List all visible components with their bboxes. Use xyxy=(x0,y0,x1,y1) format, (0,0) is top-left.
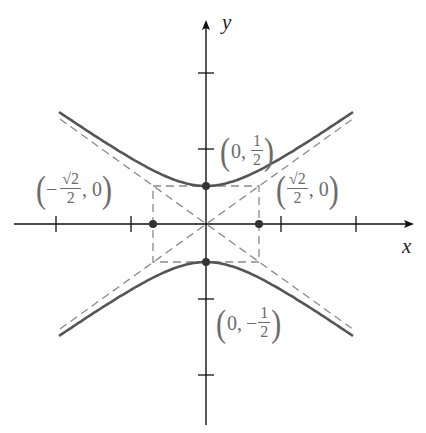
label-covertex-right: ( √2 2 , 0 ) xyxy=(276,170,339,207)
fraction: 1 2 xyxy=(258,304,270,341)
label-covertex-left: ( − √2 2 , 0 ) xyxy=(36,170,112,207)
label-vertex-top: ( 0, 1 2 ) xyxy=(220,132,274,169)
covertex-left-point xyxy=(149,220,157,228)
label-vertex-bottom: ( 0, − 1 2 ) xyxy=(216,304,281,341)
plot-canvas xyxy=(0,0,426,433)
vertex-bottom-point xyxy=(202,258,210,266)
x-axis-label: x xyxy=(402,236,411,257)
fraction: √2 2 xyxy=(60,170,81,207)
covertex-right-point xyxy=(255,220,263,228)
fraction: √2 2 xyxy=(287,170,308,207)
hyperbola-figure: y x ( 0, 1 2 ) ( 0, − 1 2 ) ( − √2 2 , 0… xyxy=(0,0,426,433)
y-axis-label: y xyxy=(222,12,231,33)
vertex-top-point xyxy=(202,182,210,190)
fraction: 1 2 xyxy=(251,132,263,169)
